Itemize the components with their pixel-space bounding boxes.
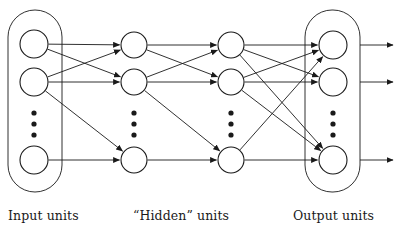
layer-group-boxes (8, 10, 360, 192)
ellipsis-dot-input-3 (31, 132, 36, 137)
hidden1-to-hidden2-edge (145, 90, 220, 150)
connection-edges (45, 44, 322, 160)
hidden-units-label: “Hidden” units (133, 208, 229, 223)
hidden2-to-output-edge (240, 57, 323, 150)
unit-node-h2c (218, 147, 244, 173)
unit-node-h1c (121, 147, 147, 173)
input-to-hidden1-edge (45, 91, 122, 151)
ellipsis-dot-hidden2-1 (228, 110, 233, 115)
vertical-ellipsis-dots (31, 110, 335, 137)
unit-node-o2 (319, 68, 347, 96)
ellipsis-dot-output-1 (330, 110, 335, 115)
network-svg-canvas (0, 0, 402, 239)
unit-node-h2a (218, 32, 244, 58)
output-exit-arrows (360, 45, 393, 160)
unit-node-o3 (319, 146, 347, 174)
ellipsis-dot-hidden1-2 (131, 121, 136, 126)
unit-nodes (20, 30, 347, 174)
ellipsis-dot-hidden1-1 (131, 110, 136, 115)
ellipsis-dot-output-3 (330, 132, 335, 137)
neural-network-diagram: Input units “Hidden” units Output units (0, 0, 402, 239)
hidden2-to-output-edge (244, 50, 319, 77)
unit-node-h2b (218, 69, 244, 95)
ellipsis-dot-hidden2-3 (228, 132, 233, 137)
ellipsis-dot-input-1 (31, 110, 36, 115)
unit-node-h1b (121, 69, 147, 95)
ellipsis-dot-hidden1-3 (131, 132, 136, 137)
output-units-label: Output units (293, 208, 374, 223)
unit-node-h1a (121, 32, 147, 58)
ellipsis-dot-output-2 (330, 121, 335, 126)
input-units-label: Input units (8, 208, 79, 223)
hidden2-to-output-edge (240, 55, 323, 148)
ellipsis-dot-hidden2-2 (228, 121, 233, 126)
ellipsis-dot-input-2 (31, 121, 36, 126)
unit-node-o1 (319, 31, 347, 59)
unit-node-i1 (20, 30, 48, 58)
hidden2-to-output-edge (244, 50, 319, 77)
hidden2-to-output-edge (242, 90, 321, 150)
unit-node-i2 (20, 68, 48, 96)
unit-node-i3 (20, 146, 48, 174)
input-to-hidden1-edge (48, 44, 119, 45)
